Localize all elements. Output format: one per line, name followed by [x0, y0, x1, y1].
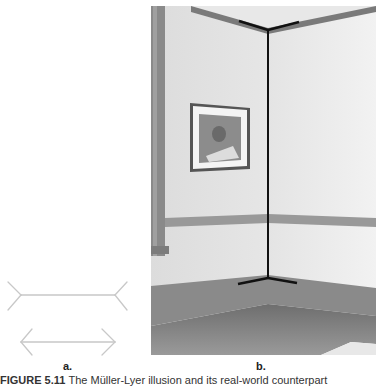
caption-prefix: FIGURE 5.11 [0, 375, 65, 386]
room-corner-photo [151, 6, 376, 355]
figure-caption: FIGURE 5.11 The Müller-Lyer illusion and… [0, 375, 390, 387]
caption-text: The Müller-Lyer illusion and its real-wo… [68, 375, 327, 386]
panel-label-b: b. [256, 360, 266, 372]
muller-lyer-diagram [0, 270, 140, 365]
panel-label-a: a. [63, 360, 72, 372]
muller-lyer-figure [0, 270, 140, 365]
